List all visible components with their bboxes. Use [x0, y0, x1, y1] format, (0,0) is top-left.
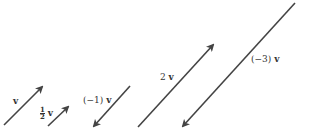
half-denominator: 2	[40, 114, 45, 120]
vector-neg3-v	[183, 3, 295, 126]
label-neg3-v: (−3) v	[251, 54, 279, 64]
half-v-symbol: v	[48, 108, 53, 118]
neg3-v-symbol: v	[274, 54, 279, 64]
vector-v	[4, 87, 42, 125]
label-2v: 2 v	[160, 72, 174, 82]
neg3-coef: (−3)	[251, 54, 271, 64]
label-neg1-v: (−1) v	[83, 95, 111, 105]
label-v: v	[13, 96, 18, 106]
vector-neg1-v	[94, 86, 130, 126]
label-half-v: 1 2 v	[40, 107, 53, 120]
two-coef: 2	[160, 72, 166, 82]
vector-2v	[138, 45, 213, 127]
neg1-v-symbol: v	[106, 95, 111, 105]
neg1-coef: (−1)	[83, 95, 103, 105]
two-v-symbol: v	[169, 72, 174, 82]
